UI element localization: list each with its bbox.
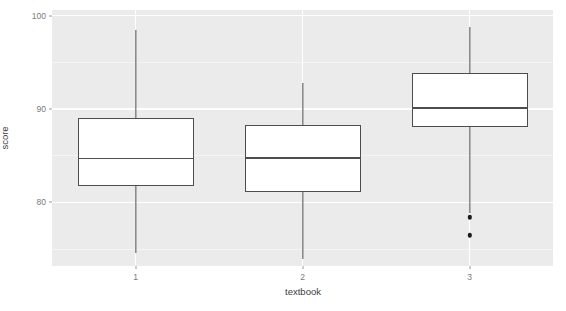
outlier-point	[467, 233, 471, 237]
y-tick-label-100: 100	[32, 11, 46, 21]
boxplot-3	[412, 10, 528, 266]
boxplot-1	[78, 10, 194, 266]
x-tick-mark	[469, 266, 470, 269]
y-axis-title: score	[0, 126, 10, 149]
whisker-upper	[469, 27, 470, 73]
x-tick-label-2: 2	[300, 272, 305, 282]
whisker-lower	[469, 127, 470, 213]
boxplot-figure: score textbook 1009080123	[0, 0, 566, 311]
y-tick-label-90: 90	[37, 104, 46, 114]
boxplot-2	[245, 10, 361, 266]
x-tick-mark	[135, 266, 136, 269]
x-axis-title: textbook	[285, 286, 321, 297]
whisker-upper	[135, 30, 136, 119]
whisker-lower	[135, 186, 136, 253]
plot-panel	[52, 10, 553, 266]
y-tick-mark	[49, 15, 52, 16]
median-line	[245, 157, 361, 159]
y-tick-mark	[49, 202, 52, 203]
x-tick-label-3: 3	[467, 272, 472, 282]
whisker-lower	[302, 192, 303, 258]
outlier-point	[467, 215, 471, 219]
y-tick-mark	[49, 109, 52, 110]
x-tick-mark	[302, 266, 303, 269]
box-iqr	[412, 73, 528, 127]
box-iqr	[245, 125, 361, 192]
median-line	[412, 107, 528, 109]
box-iqr	[78, 118, 194, 185]
median-line	[78, 158, 194, 160]
x-tick-label-1: 1	[133, 272, 138, 282]
whisker-upper	[302, 83, 303, 125]
y-tick-label-80: 80	[37, 197, 46, 207]
